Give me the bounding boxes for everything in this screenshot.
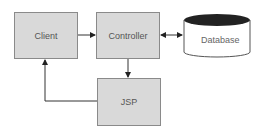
edge-jsp-client [45,60,97,101]
jsp-node: JSP [97,78,161,126]
database-label: Database [201,35,240,45]
client-node: Client [14,12,78,59]
controller-label: Controller [108,31,147,41]
controller-node: Controller [96,12,160,59]
jsp-label: JSP [121,97,138,107]
client-label: Client [34,31,57,41]
